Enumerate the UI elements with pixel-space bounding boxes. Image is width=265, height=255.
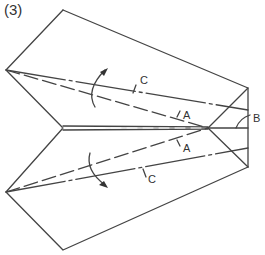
diag-upper <box>208 88 248 128</box>
label-a-lower: A <box>183 142 191 154</box>
spine-bottom <box>63 129 208 130</box>
fold-line-c-lower <box>6 148 248 192</box>
outline-upper <box>63 10 248 167</box>
outline-left-upper <box>6 10 63 128</box>
spine-top <box>63 126 208 127</box>
diag-lower <box>208 128 248 167</box>
label-b: B <box>253 112 260 124</box>
label-c-lower: C <box>148 173 156 185</box>
fold-line-a-lower <box>6 128 208 192</box>
paper-airplane-diagram: C A A C B <box>0 0 265 255</box>
outline-left-lower <box>6 128 248 250</box>
label-c-upper: C <box>140 74 148 86</box>
lower-fold-arrow-path <box>89 153 105 185</box>
label-a-upper: A <box>183 109 191 121</box>
fold-line-c-upper <box>6 70 248 110</box>
upper-fold-arrow-path <box>92 70 105 107</box>
